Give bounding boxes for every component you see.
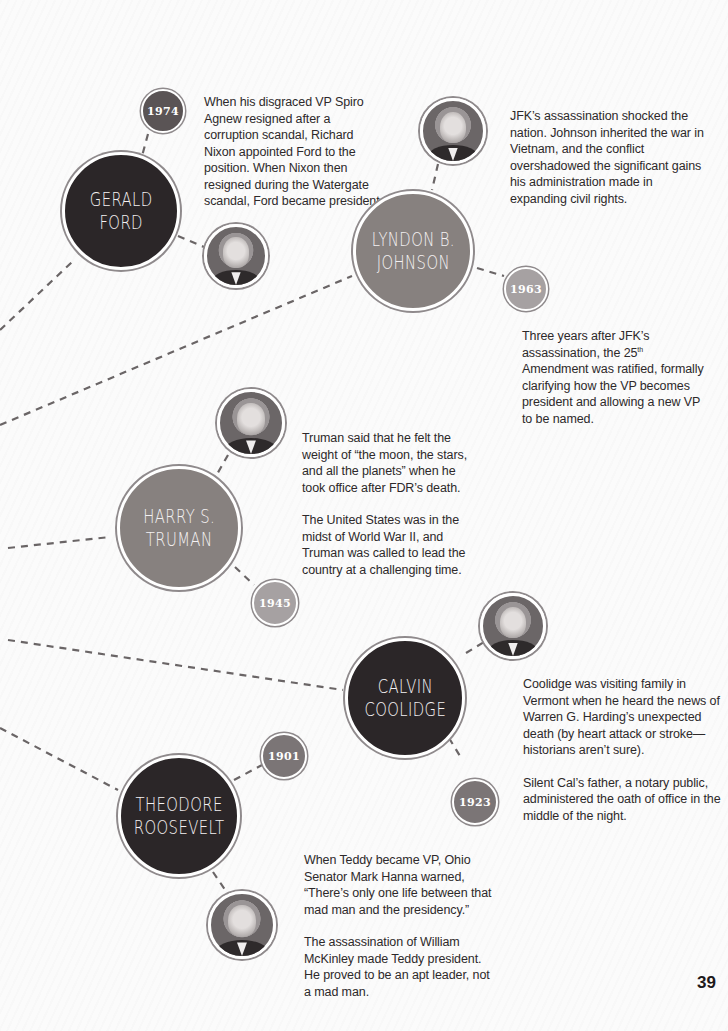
spoke-johnson-photo [432, 164, 438, 190]
year-label: 1923 [459, 796, 491, 809]
president-name-line1: GERALD [90, 188, 153, 211]
calvin-coolidge-portrait-icon [480, 593, 546, 659]
paragraph: The assassination of William McKinley ma… [304, 934, 494, 1000]
face-shape [500, 607, 526, 638]
lyndon-johnson-portrait-icon [420, 98, 486, 164]
text-part: Amendment was ratified, formally clarify… [522, 362, 704, 426]
branch-coolidge [8, 640, 343, 690]
president-name-line2: JOHNSON [371, 251, 454, 274]
president-name-line2: TRUMAN [143, 528, 215, 551]
paragraph: The United States was in the midst of Wo… [302, 512, 482, 578]
branch-roosevelt [0, 728, 118, 790]
president-name-line2: ROOSEVELT [134, 816, 225, 839]
coolidge-description: Coolidge was visiting family in Vermont … [523, 676, 723, 824]
ordinal-suffix: th [637, 346, 643, 353]
president-name-line1: THEODORE [134, 793, 225, 816]
year-label: 1963 [510, 283, 542, 296]
text-part: Three years after JFK’s assassination, t… [522, 329, 649, 360]
spoke-truman-photo [216, 455, 228, 476]
theodore-roosevelt-portrait-icon [208, 891, 276, 959]
theodore-roosevelt-circle: THEODORE ROOSEVELT [118, 755, 240, 877]
year-badge-1923: 1923 [452, 779, 498, 825]
spoke-truman-year [235, 567, 254, 585]
president-name-line1: HARRY S. [143, 505, 215, 528]
year-label: 1974 [147, 105, 179, 118]
president-name-line1: LYNDON B. [371, 228, 454, 251]
harry-truman-circle: HARRY S. TRUMAN [117, 466, 241, 590]
year-label: 1945 [259, 597, 291, 610]
spoke-ford-photo [178, 236, 204, 247]
paragraph: Truman said that he felt the weight of “… [302, 430, 482, 496]
ford-description: When his disgraced VP Spiro Agnew resign… [204, 94, 384, 210]
spoke-coolidge-photo [466, 642, 484, 653]
branch-ford [0, 262, 72, 330]
spoke-roosevelt-year [234, 765, 262, 780]
year-badge-1974: 1974 [141, 89, 185, 133]
paragraph: Three years after JFK’s assassination, t… [522, 328, 712, 427]
paragraph: When his disgraced VP Spiro Agnew resign… [204, 94, 384, 210]
paragraph: JFK’s assassination shocked the nation. … [510, 108, 710, 207]
face-shape [223, 237, 249, 267]
president-name-line2: COOLIDGE [364, 698, 446, 721]
spoke-johnson-year [477, 268, 504, 276]
page-number: 39 [697, 973, 716, 993]
spoke-coolidge-year [449, 738, 460, 756]
year-badge-1963: 1963 [504, 267, 548, 311]
branch-truman [8, 537, 110, 548]
paragraph: When Teddy became VP, Ohio Senator Mark … [304, 852, 494, 918]
year-badge-1945: 1945 [252, 580, 298, 626]
truman-description: Truman said that he felt the weight of “… [302, 430, 482, 578]
roosevelt-description: When Teddy became VP, Ohio Senator Mark … [304, 852, 494, 1000]
year-badge-1901: 1901 [261, 733, 307, 779]
president-name-line2: FORD [90, 211, 153, 234]
year-label: 1901 [268, 750, 300, 763]
gerald-ford-portrait-icon [204, 224, 268, 288]
johnson-amendment-note: Three years after JFK’s assassination, t… [522, 328, 712, 427]
paragraph: Silent Cal’s father, a notary public, ad… [523, 775, 723, 825]
calvin-coolidge-circle: CALVIN COOLIDGE [345, 638, 465, 758]
harry-truman-portrait-icon [217, 389, 285, 457]
face-shape [237, 403, 264, 435]
face-shape [440, 112, 466, 143]
president-name-line1: CALVIN [364, 675, 446, 698]
face-shape [228, 905, 255, 937]
branch-johnson [0, 276, 352, 425]
johnson-description: JFK’s assassination shocked the nation. … [510, 108, 710, 207]
lyndon-johnson-circle: LYNDON B. JOHNSON [353, 191, 473, 311]
gerald-ford-circle: GERALD FORD [62, 152, 180, 270]
paragraph: Coolidge was visiting family in Vermont … [523, 676, 723, 759]
